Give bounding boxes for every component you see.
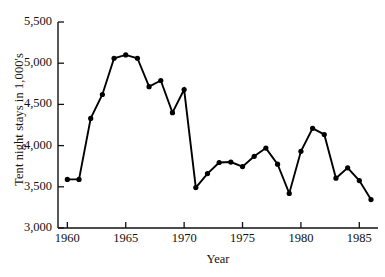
data-point (158, 78, 163, 83)
data-point (310, 126, 315, 131)
data-point (252, 154, 257, 159)
data-point (100, 92, 105, 97)
data-point (193, 185, 198, 190)
data-point (240, 164, 245, 169)
data-point (146, 84, 151, 89)
y-axis-tick-marks (58, 22, 64, 228)
data-point (76, 177, 81, 182)
data-point (65, 177, 70, 182)
data-point (182, 87, 187, 92)
x-tick-label: 1975 (230, 232, 255, 245)
chart-figure: Tent night stays in 1,000's 3,0003,5004,… (0, 0, 385, 277)
x-tick-label: 1960 (55, 232, 80, 245)
data-point (263, 145, 268, 150)
data-point (217, 160, 222, 165)
data-point (368, 197, 373, 202)
axes (58, 22, 378, 228)
data-point (298, 149, 303, 154)
data-point (88, 116, 93, 121)
x-tick-label: 1985 (347, 232, 372, 245)
x-axis-title: Year (58, 252, 378, 267)
data-point (322, 132, 327, 137)
data-point (333, 176, 338, 181)
data-point (287, 191, 292, 196)
data-point (205, 171, 210, 176)
data-point (123, 52, 128, 57)
data-line-series (67, 55, 371, 200)
data-point-markers (65, 52, 374, 202)
x-tick-label: 1970 (172, 232, 197, 245)
data-point (228, 159, 233, 164)
data-point (170, 110, 175, 115)
data-point (357, 178, 362, 183)
x-tick-label: 1965 (113, 232, 138, 245)
x-axis-tick-marks (67, 222, 359, 228)
data-point (111, 56, 116, 61)
data-point (345, 165, 350, 170)
data-point (275, 162, 280, 167)
x-tick-label: 1980 (288, 232, 313, 245)
data-point (135, 56, 140, 61)
